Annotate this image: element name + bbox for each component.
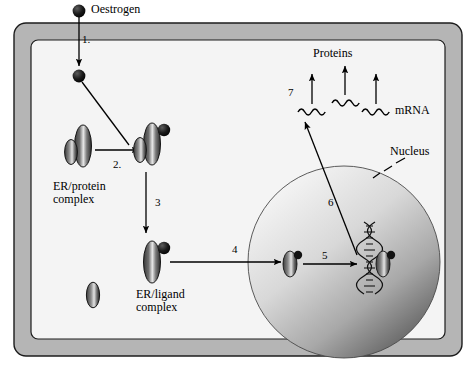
step-label-6: 6 <box>328 196 334 208</box>
oestrogen-dot-outside <box>73 5 86 18</box>
step-label-1: 1. <box>82 33 90 45</box>
er-protein-complex-line-2: complex <box>53 193 106 206</box>
step-label-4: 4 <box>232 243 238 255</box>
figure-canvas: Oestrogen ER/protein complex ER/ligand c… <box>0 0 476 377</box>
step-label-7: 7 <box>288 86 294 98</box>
er-ligand-complex-label: ER/ligand complex <box>136 288 185 314</box>
proteins-label: Proteins <box>313 46 352 61</box>
dissociated-protein-icon <box>86 282 99 308</box>
er-ligand-complex-line-2: complex <box>136 301 185 314</box>
oestrogen-dot-inside <box>73 70 86 83</box>
er-protein-complex-label: ER/protein complex <box>53 180 106 206</box>
step-label-2: 2. <box>113 158 121 170</box>
mrna-label: mRNA <box>395 103 430 118</box>
step-label-3: 3 <box>155 196 161 208</box>
step-label-5: 5 <box>322 249 328 261</box>
nucleus-label: Nucleus <box>390 144 429 159</box>
oestrogen-label: Oestrogen <box>91 2 140 17</box>
